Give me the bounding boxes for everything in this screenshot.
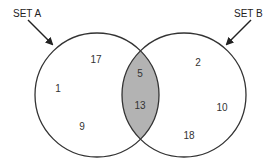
intersection-value: 13 <box>134 100 146 111</box>
set-b-label: SET B <box>234 8 263 19</box>
set-a-value: 17 <box>90 54 102 65</box>
set-a-label: SET A <box>13 8 41 19</box>
intersection-value: 5 <box>137 68 143 79</box>
set-b-value: 2 <box>195 57 201 68</box>
set-a-value: 9 <box>79 121 85 132</box>
set-a-arrow-icon <box>28 20 52 44</box>
set-b-arrow-icon <box>227 20 251 44</box>
set-b-value: 18 <box>183 130 195 141</box>
set-b-value: 10 <box>216 102 228 113</box>
venn-diagram: SET A SET B 17 1 9 5 13 2 10 18 <box>0 0 280 168</box>
set-a-value: 1 <box>55 83 61 94</box>
